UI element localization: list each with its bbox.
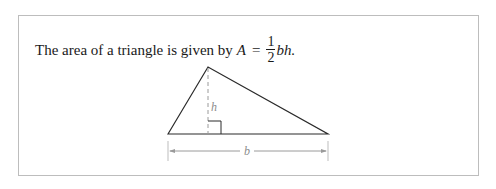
arrow-left-icon (169, 149, 175, 153)
arrow-right-icon (321, 149, 327, 153)
triangle-shape (168, 67, 328, 134)
right-angle-marker (208, 121, 221, 134)
height-label: h (211, 100, 217, 114)
base-label: b (244, 144, 250, 158)
triangle-diagram: h b (0, 0, 496, 189)
